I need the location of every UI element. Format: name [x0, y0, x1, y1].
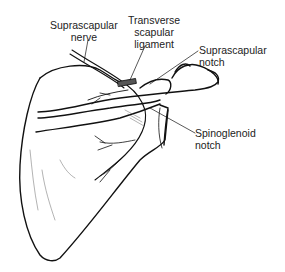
leader-suprascapular-notch: [150, 51, 198, 84]
transverse-ligament: [118, 78, 137, 86]
scapula-outline: [20, 78, 168, 261]
leader-ligament: [130, 46, 145, 80]
leader-spinoglenoid-notch: [150, 108, 195, 133]
label-spinoglenoid-notch: Spinoglenoid notch: [195, 127, 256, 151]
label-transverse-scapular-ligament: Transverse scapular ligament: [128, 14, 180, 50]
label-suprascapular-notch: Suprascapular notch: [199, 44, 267, 68]
label-suprascapular-nerve: Suprascapular nerve: [50, 19, 118, 43]
